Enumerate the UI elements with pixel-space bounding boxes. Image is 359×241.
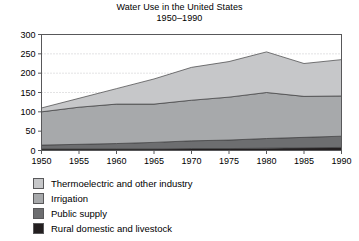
legend-item-label: Rural domestic and livestock (51, 223, 172, 234)
legend-item-label: Irrigation (51, 193, 88, 204)
svg-text:1960: 1960 (106, 156, 126, 166)
svg-text:1985: 1985 (294, 156, 314, 166)
legend-swatch-icon (33, 208, 44, 219)
svg-text:1955: 1955 (69, 156, 89, 166)
svg-text:300: 300 (20, 30, 35, 40)
chart-legend: Thermoelectric and other industryIrrigat… (33, 176, 333, 236)
svg-text:1965: 1965 (144, 156, 164, 166)
svg-text:100: 100 (20, 107, 35, 117)
x-axis-ticks: 195019551960196519701975198019851990 (31, 156, 351, 166)
svg-text:250: 250 (20, 49, 35, 59)
svg-text:1975: 1975 (219, 156, 239, 166)
svg-text:0: 0 (30, 146, 35, 156)
legend-item[interactable]: Public supply (33, 206, 333, 221)
svg-text:1990: 1990 (331, 156, 351, 166)
legend-item[interactable]: Irrigation (33, 191, 333, 206)
legend-item-label: Public supply (51, 208, 107, 219)
svg-text:150: 150 (20, 88, 35, 98)
legend-swatch-icon (33, 223, 44, 234)
legend-item-label: Thermoelectric and other industry (51, 178, 193, 189)
svg-text:1950: 1950 (31, 156, 51, 166)
chart-container: Water Use in the United States 1950–1990… (0, 0, 359, 241)
svg-text:1980: 1980 (256, 156, 276, 166)
legend-swatch-icon (33, 193, 44, 204)
svg-text:1970: 1970 (181, 156, 201, 166)
stacked-area-series (42, 52, 342, 151)
y-axis-ticks: 050100150200250300 (20, 30, 35, 156)
legend-item[interactable]: Thermoelectric and other industry (33, 176, 333, 191)
svg-text:50: 50 (25, 126, 35, 136)
legend-item[interactable]: Rural domestic and livestock (33, 221, 333, 236)
svg-text:200: 200 (20, 68, 35, 78)
legend-swatch-icon (33, 178, 44, 189)
